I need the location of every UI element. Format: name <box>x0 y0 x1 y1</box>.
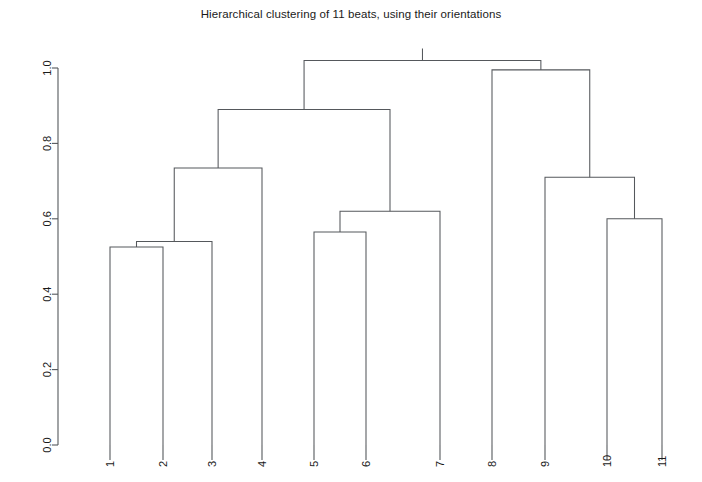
leaf-label: 11 <box>656 456 668 467</box>
leaf-label: 8 <box>486 461 498 467</box>
leaf-label: 4 <box>256 461 268 467</box>
dendrogram-link <box>110 247 163 445</box>
y-axis-tick-label: 0.8 <box>41 136 53 151</box>
dendrogram-link <box>492 70 590 445</box>
dendrogram-link <box>340 211 440 445</box>
y-axis-tick-label: 0.0 <box>41 437 53 452</box>
dendrogram-link <box>607 219 662 445</box>
dendrogram-plot-page: Hierarchical clustering of 11 beats, usi… <box>0 0 702 482</box>
dendrogram-link <box>314 232 366 445</box>
dendrogram-link <box>137 241 213 445</box>
y-axis-tick-label: 0.2 <box>41 362 53 377</box>
leaf-label: 5 <box>308 461 320 467</box>
leaf-label: 6 <box>360 461 372 467</box>
leaf-label: 9 <box>539 461 551 467</box>
leaf-label: 7 <box>434 461 446 467</box>
y-axis-tick-label: 1.0 <box>41 60 53 75</box>
leaf-label: 3 <box>206 461 218 467</box>
dendrogram-link <box>545 177 635 445</box>
leaf-label: 2 <box>157 461 169 467</box>
dendrogram-link <box>304 60 541 109</box>
dendrogram-link <box>218 109 390 211</box>
y-axis-tick-label: 0.4 <box>41 287 53 302</box>
dendrogram-chart: 0.00.20.40.60.81.01234567891011 <box>0 0 702 482</box>
leaf-label: 1 <box>104 461 116 467</box>
y-axis-tick-label: 0.6 <box>41 211 53 226</box>
leaf-label: 10 <box>601 455 613 467</box>
dendrogram-link <box>174 168 262 445</box>
